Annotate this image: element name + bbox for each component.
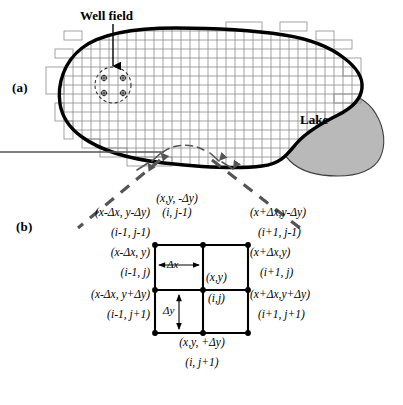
node-label-middle-right-coord: (x+Δx,y) <box>250 246 290 259</box>
grid-node <box>152 242 158 248</box>
node-label-middle-left-index: (i-1, j) <box>28 266 150 279</box>
node-label-top-center-coord: (x,y, -Δy) <box>117 192 237 205</box>
node-label-bottom-center-index: (i, j+1) <box>142 356 262 369</box>
node-label-bottom-right-index: (i+1, j+1) <box>258 308 305 321</box>
delta-x-label: Δx <box>167 258 178 270</box>
grid-node <box>152 287 158 293</box>
panel-a-label: (a) <box>12 80 28 96</box>
node-label-bottom-center-coord: (x,y, +Δy) <box>142 336 262 349</box>
node-label-top-left-index: (i-1, j-1) <box>28 226 150 239</box>
lake-label: Lake <box>300 112 328 128</box>
node-label-top-left-coord: (x-Δx, y-Δy) <box>28 206 150 219</box>
grid-node <box>200 242 206 248</box>
well-field-label: Well field <box>80 8 133 24</box>
node-label-top-right-index: (i+1, j-1) <box>258 226 301 239</box>
center-node-index: (i,j) <box>208 292 225 304</box>
node-label-top-right-coord: (x+Δx,y-Δy) <box>250 206 306 219</box>
node-label-bottom-left-index: (i-1, j+1) <box>18 308 150 321</box>
node-label-bottom-right-coord: (x+Δx,y+Δy) <box>250 288 310 301</box>
delta-y-label: Δy <box>163 304 174 316</box>
panel-a-map <box>0 22 384 176</box>
panel-b-cells <box>152 242 251 336</box>
center-node-coord: (x,y) <box>206 271 227 283</box>
node-label-bottom-left-coord: (x-Δx, y+Δy) <box>18 288 150 301</box>
node-label-middle-right-index: (i+1, j) <box>260 266 293 279</box>
node-label-middle-left-coord: (x-Δx, y) <box>28 246 150 259</box>
grid-node <box>200 287 206 293</box>
